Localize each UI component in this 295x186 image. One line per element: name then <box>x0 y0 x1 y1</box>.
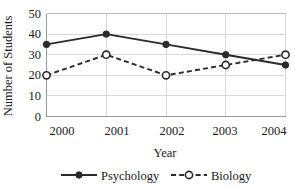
y-tick-label-20: 20 <box>29 68 42 82</box>
legend-label-psychology: Psychology <box>101 169 160 183</box>
data-point-psychology-2000 <box>43 41 49 47</box>
y-tick-label-0: 0 <box>35 110 41 124</box>
y-tick-label-10: 10 <box>29 89 42 103</box>
x-tick-label-2003: 2003 <box>213 124 238 138</box>
legend-marker-biology <box>185 171 192 178</box>
legend-label-biology: Biology <box>211 169 252 183</box>
data-point-psychology-2003 <box>223 52 229 58</box>
data-point-biology-2003 <box>222 61 229 68</box>
x-tick-label-2000: 2000 <box>50 124 75 138</box>
y-tick-label-30: 30 <box>29 48 42 62</box>
x-tick-label-2001: 2001 <box>105 124 130 138</box>
data-point-biology-2002 <box>162 72 169 79</box>
data-point-biology-2000 <box>43 72 50 79</box>
data-point-psychology-2004 <box>282 62 288 68</box>
data-point-psychology-2002 <box>163 41 169 47</box>
data-point-psychology-2001 <box>103 31 109 37</box>
y-tick-label-40: 40 <box>29 27 42 41</box>
data-point-biology-2004 <box>282 51 289 58</box>
legend-marker-psychology <box>76 172 82 178</box>
chart-background <box>0 0 295 186</box>
line-chart: Number of Students 50 40 30 20 10 0 <box>0 0 295 186</box>
x-tick-label-2004: 2004 <box>262 124 288 138</box>
x-tick-label-2002: 2002 <box>160 124 185 138</box>
y-axis-title: Number of Students <box>1 16 15 117</box>
y-tick-label-50: 50 <box>29 7 42 21</box>
data-point-biology-2001 <box>103 51 110 58</box>
x-axis-title: Year <box>153 146 177 160</box>
